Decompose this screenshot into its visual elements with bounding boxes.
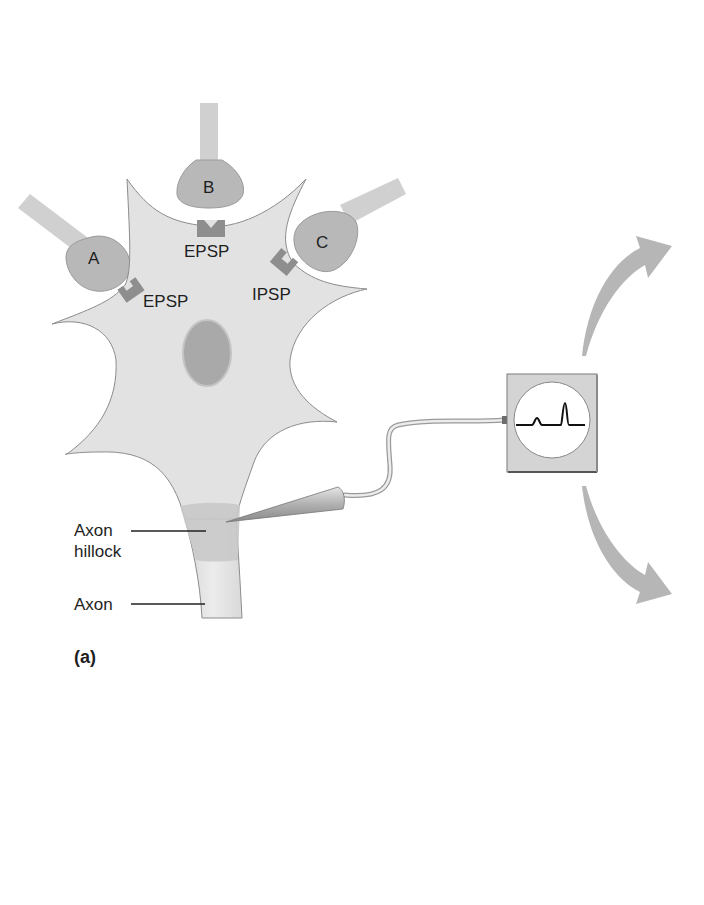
axon-hillock bbox=[180, 503, 240, 562]
synapse-b-label: EPSP bbox=[184, 243, 229, 260]
scope-screen bbox=[514, 382, 590, 458]
axon-hillock-label-line1: Axon bbox=[74, 520, 121, 541]
neuron-diagram bbox=[0, 0, 704, 905]
recorder-device bbox=[507, 374, 597, 472]
terminal-c bbox=[294, 178, 406, 272]
axon-hillock-label: Axon hillock bbox=[74, 520, 121, 562]
synapse-c-label: IPSP bbox=[252, 286, 291, 303]
axon-label: Axon bbox=[74, 594, 113, 615]
nucleus bbox=[183, 320, 231, 386]
upper-arrow bbox=[582, 236, 672, 356]
electrode-wire bbox=[345, 420, 504, 496]
terminal-a-label: A bbox=[88, 250, 99, 267]
axon-hillock-label-line2: hillock bbox=[74, 541, 121, 562]
receptor-b bbox=[197, 220, 225, 237]
lower-arrow bbox=[582, 486, 672, 604]
terminal-b-label: B bbox=[203, 179, 214, 196]
terminal-c-label: C bbox=[316, 234, 328, 251]
panel-label: (a) bbox=[74, 648, 96, 666]
synapse-a-label: EPSP bbox=[143, 293, 188, 310]
terminal-a bbox=[18, 194, 130, 291]
